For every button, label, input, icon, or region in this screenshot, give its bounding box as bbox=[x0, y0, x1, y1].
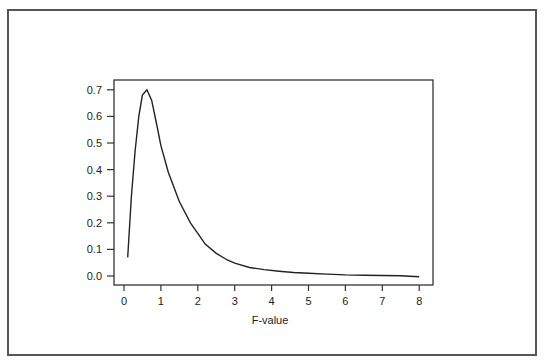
x-tick-label: 2 bbox=[195, 295, 201, 307]
plot-area bbox=[114, 80, 433, 285]
y-tick-label: 0.7 bbox=[87, 84, 102, 96]
y-tick-label: 0.5 bbox=[87, 137, 102, 149]
y-tick-label: 0.6 bbox=[87, 110, 102, 122]
x-axis: 012345678 bbox=[121, 285, 422, 307]
x-tick-label: 6 bbox=[342, 295, 348, 307]
y-tick-label: 0.2 bbox=[87, 217, 102, 229]
y-tick-label: 0.4 bbox=[87, 164, 102, 176]
y-tick-label: 0.1 bbox=[87, 243, 102, 255]
x-axis-title: F-value bbox=[252, 314, 289, 326]
x-tick-label: 1 bbox=[158, 295, 164, 307]
density-curve bbox=[128, 90, 420, 277]
x-tick-label: 3 bbox=[232, 295, 238, 307]
y-tick-label: 0.0 bbox=[87, 270, 102, 282]
x-tick-label: 7 bbox=[379, 295, 385, 307]
x-tick-label: 5 bbox=[305, 295, 311, 307]
density-chart: 012345678 0.00.10.20.30.40.50.60.7 F-val… bbox=[0, 0, 544, 362]
x-tick-label: 8 bbox=[416, 295, 422, 307]
y-tick-label: 0.3 bbox=[87, 190, 102, 202]
x-tick-label: 4 bbox=[269, 295, 275, 307]
x-tick-label: 0 bbox=[121, 295, 127, 307]
y-axis: 0.00.10.20.30.40.50.60.7 bbox=[87, 84, 114, 282]
